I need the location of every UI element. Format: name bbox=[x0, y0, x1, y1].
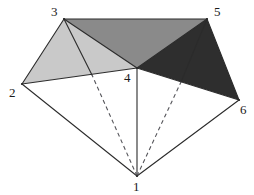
vertex-dot-1 bbox=[136, 175, 138, 177]
figure-canvas bbox=[0, 0, 254, 195]
vertex-dot-2 bbox=[21, 83, 23, 85]
vertex-label-3: 3 bbox=[51, 5, 58, 18]
vertex-label-6: 6 bbox=[240, 103, 247, 116]
faces-group bbox=[22, 19, 239, 176]
vertex-label-4: 4 bbox=[124, 71, 131, 84]
vertex-label-2: 2 bbox=[9, 86, 16, 99]
vertex-label-1: 1 bbox=[133, 180, 140, 193]
vertex-dot-6 bbox=[238, 99, 240, 101]
vertex-label-5: 5 bbox=[214, 5, 221, 18]
vertex-dot-3 bbox=[63, 18, 65, 20]
white-face-left bbox=[22, 68, 137, 176]
vertex-dot-4 bbox=[136, 67, 138, 69]
polyhedron-figure: 3 5 2 4 6 1 bbox=[0, 0, 254, 195]
vertex-dot-5 bbox=[206, 18, 208, 20]
